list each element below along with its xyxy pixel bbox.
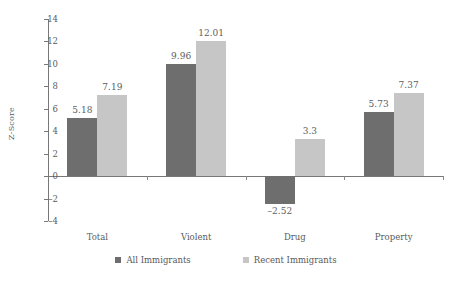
x-tick-mark (147, 176, 148, 180)
bar-value-label: 7.37 (388, 80, 430, 90)
bar (67, 118, 97, 176)
x-tick-mark (344, 176, 345, 180)
bar-value-label: –2.52 (259, 206, 301, 216)
x-category-label: Total (47, 232, 147, 242)
bar-value-label: 7.19 (91, 82, 133, 92)
y-tick-label: 6 (38, 104, 58, 114)
y-tick-label: –2 (38, 194, 58, 204)
legend-item: Recent Immigrants (243, 255, 337, 265)
y-tick-label: 14 (38, 14, 58, 24)
bar (196, 41, 226, 176)
y-tick-label: 10 (38, 59, 58, 69)
y-tick-label: 2 (38, 149, 58, 159)
bar-value-label: 3.3 (289, 126, 331, 136)
x-tick-mark (443, 176, 444, 180)
y-tick-label: 4 (38, 126, 58, 136)
x-category-label: Drug (245, 232, 345, 242)
x-category-label: Violent (146, 232, 246, 242)
legend-swatch-icon (115, 257, 121, 263)
chart-legend: All ImmigrantsRecent Immigrants (0, 255, 452, 265)
legend-label: All Immigrants (126, 255, 190, 265)
bar (166, 64, 196, 176)
y-tick-label: 8 (38, 81, 58, 91)
bar-value-label: 12.01 (190, 28, 232, 38)
bar (394, 93, 424, 176)
legend-item: All Immigrants (115, 255, 190, 265)
legend-swatch-icon (243, 257, 249, 263)
bar (364, 112, 394, 176)
legend-label: Recent Immigrants (254, 255, 337, 265)
x-tick-mark (246, 176, 247, 180)
y-tick-label: 12 (38, 36, 58, 46)
y-axis-title: Z-Score (5, 94, 19, 154)
x-category-label: Property (344, 232, 444, 242)
bar-chart: Z-Score 14121086420–2–4 5.187.199.9612.0… (0, 0, 452, 283)
bar (295, 139, 325, 176)
y-axis-line (48, 19, 49, 221)
bar (97, 95, 127, 176)
bar (265, 176, 295, 204)
plot-area: 14121086420–2–4 5.187.199.9612.01–2.523.… (48, 19, 443, 221)
y-tick-label: –4 (38, 216, 58, 226)
y-tick-label: 0 (38, 171, 58, 181)
